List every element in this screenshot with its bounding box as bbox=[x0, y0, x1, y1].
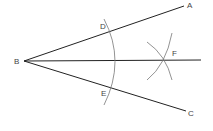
label-A: A bbox=[187, 1, 193, 10]
label-B: B bbox=[14, 57, 19, 66]
label-C: C bbox=[188, 109, 194, 118]
ray-BF bbox=[24, 60, 201, 61]
angle-bisector-diagram: A B C D E F bbox=[0, 0, 213, 131]
arc-from-E bbox=[147, 33, 172, 80]
ray-BA bbox=[24, 6, 184, 61]
label-D: D bbox=[100, 22, 106, 31]
label-E: E bbox=[101, 89, 106, 98]
label-F: F bbox=[172, 49, 177, 58]
